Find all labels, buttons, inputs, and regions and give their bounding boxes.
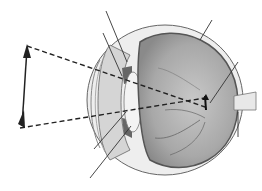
object-arrow xyxy=(18,44,31,128)
eye-illustration xyxy=(0,0,262,191)
eye-diagram xyxy=(0,0,262,191)
